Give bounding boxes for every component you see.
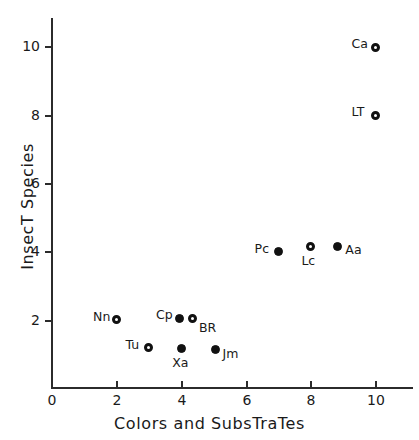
data-point-label-pc: Pc: [255, 241, 269, 256]
plot-area: 10 8 6 4 2 0 2 4 6 8 10 Colors and SubsT…: [0, 0, 419, 440]
y-tick-8: [45, 115, 52, 117]
x-tick-label-10: 10: [363, 392, 389, 408]
y-tick-2: [45, 320, 52, 322]
y-tick-label-2: 2: [14, 312, 40, 328]
data-point-nn: [112, 315, 121, 324]
data-point-label-lc: Lc: [301, 253, 315, 268]
data-point-cp: [175, 314, 184, 323]
x-tick-label-4: 4: [169, 392, 195, 408]
x-tick-8: [310, 381, 312, 388]
x-axis-title: Colors and SubsTraTes: [0, 414, 419, 433]
x-tick-6: [246, 381, 248, 388]
data-point-tu: [144, 343, 153, 352]
data-point-label-jm: Jm: [223, 346, 239, 361]
x-tick-label-2: 2: [104, 392, 130, 408]
y-axis-title: InsecT Species: [18, 127, 37, 287]
y-tick-6: [45, 183, 52, 185]
data-point-label-ca: Ca: [352, 36, 368, 51]
x-tick-0: [51, 381, 53, 388]
data-point-br: [188, 314, 197, 323]
x-tick-4: [181, 381, 183, 388]
data-point-lt: [371, 111, 380, 120]
data-point-label-xa: Xa: [172, 355, 188, 370]
data-point-label-br: BR: [199, 320, 216, 335]
data-point-jm: [211, 345, 220, 354]
data-point-pc: [274, 247, 283, 256]
data-point-label-aa: Aa: [345, 242, 361, 257]
y-axis-line: [51, 18, 53, 389]
data-point-label-tu: Tu: [125, 337, 139, 352]
data-point-ca: [371, 43, 380, 52]
x-axis-line: [51, 387, 413, 389]
data-point-label-nn: Nn: [93, 309, 110, 324]
x-tick-10: [375, 381, 377, 388]
y-tick-label-8: 8: [14, 107, 40, 123]
x-tick-2: [116, 381, 118, 388]
data-point-label-lt: LT: [352, 104, 365, 119]
y-tick-10: [45, 46, 52, 48]
y-tick-label-10: 10: [14, 38, 40, 54]
data-point-lc: [306, 242, 315, 251]
x-tick-label-6: 6: [234, 392, 260, 408]
scatter-plot-figure: 10 8 6 4 2 0 2 4 6 8 10 Colors and SubsT…: [0, 0, 419, 440]
data-point-aa: [333, 242, 342, 251]
x-tick-label-8: 8: [298, 392, 324, 408]
data-point-xa: [177, 344, 186, 353]
y-tick-4: [45, 251, 52, 253]
x-tick-label-0: 0: [39, 392, 65, 408]
data-point-label-cp: Cp: [156, 307, 173, 322]
